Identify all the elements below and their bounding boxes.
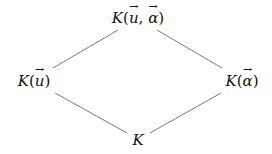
field-symbol: K bbox=[132, 131, 143, 149]
edge-right-bottom bbox=[150, 93, 221, 133]
vector-u: u bbox=[129, 9, 139, 27]
node-left: K(u) bbox=[18, 72, 51, 90]
field-symbol: K bbox=[112, 9, 123, 27]
node-right: K(α) bbox=[225, 72, 258, 90]
field-symbol: K bbox=[18, 72, 29, 90]
vector-u: u bbox=[35, 72, 45, 90]
vector-alpha: α bbox=[148, 9, 158, 27]
edge-top-left bbox=[53, 30, 118, 68]
node-top: K(u, α) bbox=[112, 9, 164, 27]
node-bottom: K bbox=[132, 131, 143, 149]
vector-alpha: α bbox=[243, 72, 253, 90]
field-symbol: K bbox=[225, 72, 236, 90]
edge-top-right bbox=[157, 30, 222, 68]
edge-left-bottom bbox=[55, 93, 127, 133]
